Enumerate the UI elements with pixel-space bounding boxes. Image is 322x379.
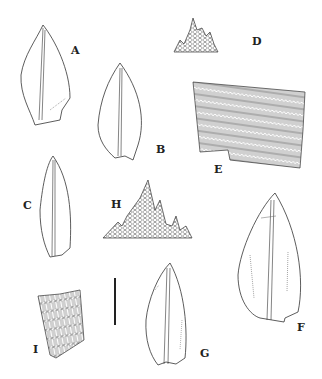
leaf-c: [40, 156, 71, 257]
leaf-f: [238, 193, 301, 322]
panel-e-cells: [193, 82, 305, 168]
illustration-drawing: [0, 0, 322, 379]
figure-plate: A B C D E F G H I: [0, 0, 322, 379]
panel-label-g: G: [200, 348, 209, 359]
panel-label-e: E: [214, 164, 222, 175]
panel-i-cells: [38, 290, 84, 358]
panel-label-i: I: [33, 344, 38, 355]
panel-label-f: F: [297, 322, 305, 333]
panel-label-h: H: [111, 199, 121, 210]
leaf-b: [98, 63, 141, 160]
leaf-a: [21, 25, 70, 125]
panel-label-d: D: [252, 36, 262, 47]
leaf-g: [146, 263, 186, 365]
panel-label-a: A: [71, 45, 80, 56]
panel-d-cells: [174, 18, 218, 52]
panel-label-b: B: [156, 144, 165, 155]
panel-label-c: C: [23, 200, 32, 211]
